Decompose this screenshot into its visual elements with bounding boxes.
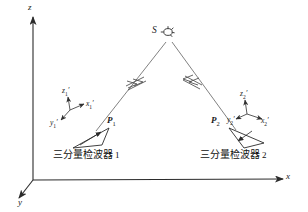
geophone-2-caption: 三分量检波器2 bbox=[200, 150, 267, 160]
triad-2-y-axis bbox=[236, 114, 247, 119]
point-label-p1: P1 bbox=[107, 116, 116, 127]
axis-group bbox=[19, 17, 283, 198]
axis-x-label: x bbox=[286, 172, 290, 181]
triad-1-x-axis bbox=[70, 104, 84, 110]
triad-1-y-axis bbox=[61, 110, 70, 120]
geophone-1-caption-text: 三分量检波器 bbox=[53, 149, 113, 160]
point-label-p2: P2 bbox=[211, 116, 220, 127]
axis-y-label: y bbox=[18, 198, 22, 207]
triad-2-x-axis bbox=[247, 114, 262, 119]
geophone-2-symbol bbox=[229, 128, 264, 148]
triad-1-y-prime: ′ bbox=[56, 118, 58, 127]
triad-1-group bbox=[61, 97, 84, 120]
geophone-1-symbol bbox=[73, 128, 109, 148]
triad-1-y-label: y1′ bbox=[50, 119, 58, 129]
triad-1-z-axis bbox=[68, 97, 70, 110]
p1-index: 1 bbox=[113, 120, 116, 127]
geophone-1-caption: 三分量检波器1 bbox=[53, 150, 120, 160]
triad-1-z-prime: ′ bbox=[68, 86, 70, 95]
figure-canvas: z x y S P1 P2 z1′ x1′ y1′ z2′ x2′ y2′ 三分… bbox=[0, 0, 308, 212]
axis-z-label: z bbox=[28, 3, 32, 12]
triad-2-x-prime: ′ bbox=[267, 116, 269, 125]
triad-1-x-prime: ′ bbox=[92, 99, 94, 108]
axis-y-line bbox=[19, 180, 33, 198]
triad-2-z-axis bbox=[245, 100, 247, 114]
ray-left-marker bbox=[126, 77, 146, 90]
triad-2-z-label: z2′ bbox=[240, 90, 247, 100]
triad-1-z-label: z1′ bbox=[62, 87, 69, 97]
source-label: S bbox=[152, 26, 157, 36]
axis-x-line bbox=[33, 179, 283, 180]
geophone-2-caption-text: 三分量检波器 bbox=[200, 149, 260, 160]
triad-2-z-prime: ′ bbox=[246, 89, 248, 98]
triad-2-y-label: y2′ bbox=[227, 116, 235, 126]
ray-right-marker bbox=[183, 75, 202, 89]
triad-2-y-prime: ′ bbox=[233, 115, 235, 124]
triad-2-group bbox=[236, 100, 262, 119]
explosion-source-symbol bbox=[161, 26, 175, 37]
p2-index: 2 bbox=[217, 120, 220, 127]
geophone-2-caption-index: 2 bbox=[260, 150, 267, 160]
triad-1-x-label: x1′ bbox=[86, 100, 94, 110]
triad-2-x-label: x2′ bbox=[261, 117, 269, 127]
geophone-1-caption-index: 1 bbox=[113, 150, 120, 160]
